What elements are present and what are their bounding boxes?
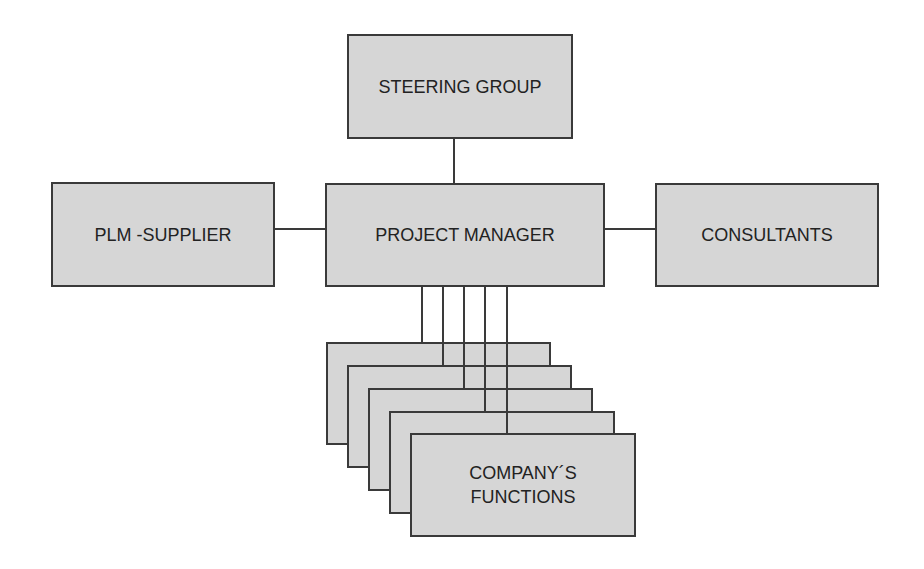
consultants-label: CONSULTANTS <box>701 223 832 247</box>
connector-pm-to-function-3 <box>463 285 465 389</box>
steering-group-box: STEERING GROUP <box>347 34 573 139</box>
connector-pm-to-function-2 <box>442 285 444 366</box>
connector-pm-to-function-1 <box>421 285 423 343</box>
function-box-company-functions: COMPANY´S FUNCTIONS <box>410 433 636 537</box>
consultants-box: CONSULTANTS <box>655 183 879 287</box>
connector-steering-to-pm <box>453 137 455 184</box>
project-manager-box: PROJECT MANAGER <box>325 183 605 287</box>
connector-pm-to-function-5 <box>506 285 508 434</box>
connector-pm-to-consultants <box>603 228 656 230</box>
project-manager-label: PROJECT MANAGER <box>375 223 555 247</box>
connector-plm-to-pm <box>273 228 326 230</box>
connector-pm-to-function-4 <box>484 285 486 412</box>
org-chart-diagram: COMPANY´S FUNCTIONS STEERING GROUP PLM -… <box>0 0 924 569</box>
steering-group-label: STEERING GROUP <box>378 75 541 99</box>
plm-supplier-box: PLM -SUPPLIER <box>51 182 275 287</box>
plm-supplier-label: PLM -SUPPLIER <box>94 223 231 247</box>
company-functions-label: COMPANY´S FUNCTIONS <box>469 461 577 509</box>
